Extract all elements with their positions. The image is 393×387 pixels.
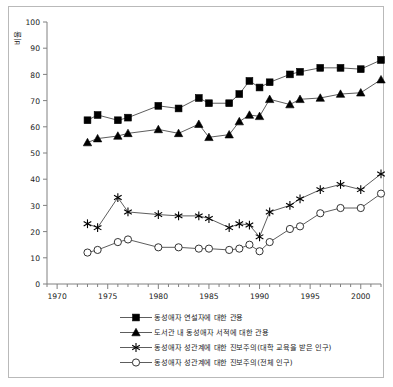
- y-tick-label: 60: [30, 123, 40, 132]
- marker-square: [206, 100, 213, 107]
- y-tick-label: 50: [30, 149, 40, 158]
- marker-triangle: [235, 117, 243, 125]
- y-tick-label: 90: [30, 44, 40, 53]
- series-line-3: [87, 194, 381, 253]
- x-tick-label: 2000: [351, 292, 370, 301]
- marker-triangle: [195, 120, 203, 128]
- y-tick-label: 40: [30, 175, 40, 184]
- marker-square: [256, 84, 263, 91]
- marker-circle: [317, 210, 324, 217]
- series-0: [84, 57, 384, 124]
- marker-square: [195, 95, 202, 102]
- marker-circle: [226, 246, 233, 253]
- marker-square: [297, 68, 304, 75]
- marker-circle: [337, 204, 344, 211]
- marker-square: [84, 117, 91, 124]
- marker-circle: [155, 244, 162, 251]
- y-tick-label: 20: [30, 228, 40, 237]
- x-tick-label: 1985: [199, 292, 218, 301]
- legend-item-0: 동성애자 연설자에 대한 관용: [118, 310, 378, 325]
- marker-circle: [377, 190, 384, 197]
- line-chart: 0102030405060708090100197019751980198519…: [0, 0, 393, 310]
- y-tick-label: 0: [35, 280, 40, 289]
- marker-square: [94, 112, 101, 119]
- legend-label-0: 동성애자 연설자에 대한 관용: [154, 310, 243, 325]
- y-tick-label: 100: [26, 18, 41, 27]
- marker-circle: [236, 245, 243, 252]
- marker-circle: [175, 244, 182, 251]
- marker-square: [287, 71, 294, 78]
- marker-square: [357, 66, 364, 73]
- marker-circle: [124, 236, 131, 243]
- y-tick-label: 10: [30, 254, 40, 263]
- series-1: [83, 75, 385, 145]
- marker-square: [266, 79, 273, 86]
- marker-square: [226, 100, 233, 107]
- marker-square: [133, 314, 140, 321]
- legend-marker-square-icon: [118, 310, 154, 325]
- y-axis-title: 비율: [13, 31, 22, 45]
- marker-circle: [132, 359, 139, 366]
- x-tick-label: 1970: [47, 292, 66, 301]
- marker-circle: [286, 225, 293, 232]
- marker-circle: [266, 238, 273, 245]
- legend-marker-triangle-icon: [118, 325, 154, 340]
- marker-triangle: [265, 95, 273, 103]
- marker-square: [337, 64, 344, 71]
- x-tick-label: 1995: [300, 292, 319, 301]
- series-line-1: [87, 80, 381, 143]
- marker-triangle: [377, 75, 385, 83]
- marker-circle: [205, 245, 212, 252]
- series-line-2: [87, 174, 381, 237]
- marker-circle: [84, 249, 91, 256]
- marker-square: [236, 91, 243, 98]
- marker-circle: [357, 204, 364, 211]
- marker-circle: [94, 246, 101, 253]
- chart-legend: 동성애자 연설자에 대한 관용 도서관 내 동성애자 서적에 대한 관용 동성애…: [118, 310, 378, 376]
- marker-triangle: [154, 125, 162, 133]
- legend-marker-star-icon: [118, 340, 154, 355]
- x-tick-label: 1990: [250, 292, 269, 301]
- legend-marker-circle-icon: [118, 355, 154, 370]
- legend-item-3: 동성애자 성관계에 대한 진보주의(전체 인구): [118, 355, 378, 370]
- legend-label-1: 도서관 내 동성애자 서적에 대한 관용: [154, 325, 268, 340]
- chart-screenshot: 0102030405060708090100197019751980198519…: [0, 0, 393, 387]
- marker-triangle: [245, 111, 253, 119]
- legend-label-3: 동성애자 성관계에 대한 진보주의(전체 인구): [154, 355, 292, 370]
- marker-square: [114, 117, 121, 124]
- x-tick-label: 1980: [149, 292, 168, 301]
- legend-label-2: 동성애자 성관계에 대한 진보주의(대학 교육을 받은 인구): [154, 340, 331, 355]
- marker-circle: [195, 245, 202, 252]
- chart-plot-container: 0102030405060708090100197019751980198519…: [0, 0, 393, 310]
- marker-square: [175, 105, 182, 112]
- marker-square: [378, 57, 385, 64]
- marker-square: [125, 114, 132, 121]
- marker-triangle: [225, 130, 233, 138]
- y-tick-label: 70: [30, 97, 40, 106]
- legend-item-1: 도서관 내 동성애자 서적에 대한 관용: [118, 325, 378, 340]
- marker-circle: [256, 248, 263, 255]
- x-tick-label: 1975: [98, 292, 117, 301]
- marker-triangle: [357, 89, 365, 97]
- marker-circle: [114, 238, 121, 245]
- y-tick-label: 30: [30, 202, 40, 211]
- marker-square: [246, 78, 253, 85]
- y-tick-label: 80: [30, 71, 40, 80]
- marker-square: [155, 102, 162, 109]
- marker-square: [317, 64, 324, 71]
- marker-triangle: [83, 138, 91, 146]
- series-3: [84, 190, 385, 256]
- legend-item-2: 동성애자 성관계에 대한 진보주의(대학 교육을 받은 인구): [118, 340, 378, 355]
- marker-circle: [246, 241, 253, 248]
- marker-triangle: [132, 328, 140, 336]
- marker-circle: [296, 223, 303, 230]
